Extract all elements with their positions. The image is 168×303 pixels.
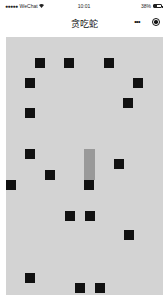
food-block <box>65 211 75 221</box>
food-block <box>124 230 134 240</box>
snake-head <box>84 180 94 190</box>
food-block <box>45 170 55 180</box>
food-block <box>64 58 74 68</box>
food-block <box>25 78 35 88</box>
battery-icon <box>153 4 162 8</box>
food-block <box>104 58 114 68</box>
food-block <box>25 273 35 283</box>
battery-indicator: 38% <box>141 3 162 9</box>
battery-percent: 38% <box>141 3 151 9</box>
food-block <box>85 211 95 221</box>
food-block <box>35 58 45 68</box>
food-block <box>6 180 16 190</box>
food-block <box>114 159 124 169</box>
more-icon[interactable]: ••• <box>134 17 140 27</box>
status-bar: ●●●●● WeChat 10:01 38% <box>0 0 168 12</box>
food-block <box>25 149 35 159</box>
nav-bar: 贪吃蛇 ••• <box>0 12 168 34</box>
food-block <box>133 78 143 88</box>
mini-program-capsule: ••• <box>134 17 160 27</box>
food-block <box>25 108 35 118</box>
game-board[interactable] <box>6 37 163 295</box>
close-icon[interactable] <box>152 18 160 26</box>
snake-body <box>84 149 95 180</box>
food-block <box>123 98 133 108</box>
food-block <box>75 283 85 293</box>
food-block <box>95 283 105 293</box>
